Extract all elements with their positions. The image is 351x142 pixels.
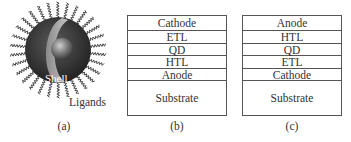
layer-htl: HTL [128, 56, 226, 69]
layer-substrate: Substrate [243, 81, 341, 115]
caption-a: (a) [44, 120, 84, 132]
layer-etl: ETL [243, 56, 341, 69]
layer-cathode: Cathode [243, 69, 341, 82]
shell-label: Shell [45, 72, 68, 84]
layer-qd: QD [128, 44, 226, 57]
layer-substrate: Substrate [128, 81, 226, 115]
core-icon [51, 38, 73, 60]
panel-a-quantum-dot: Shell Ligands (a) [0, 0, 120, 142]
layer-qd: QD [243, 44, 341, 57]
layer-anode: Anode [243, 16, 341, 31]
caption-b: (b) [157, 120, 197, 132]
device-stack-conventional: Cathode ETL QD HTL Anode Substrate [127, 15, 227, 116]
ligands-label: Ligands [69, 96, 106, 108]
layer-etl: ETL [128, 31, 226, 44]
caption-c: (c) [272, 120, 312, 132]
layer-cathode: Cathode [128, 16, 226, 31]
layer-anode: Anode [128, 69, 226, 82]
layer-htl: HTL [243, 31, 341, 44]
device-stack-inverted: Anode HTL QD ETL Cathode Substrate [242, 15, 342, 116]
